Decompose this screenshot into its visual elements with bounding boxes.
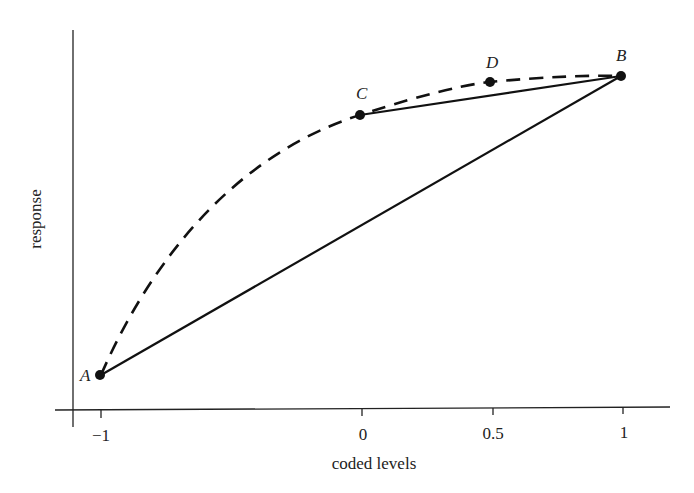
solid-line-a-b (101, 76, 621, 375)
point-c-label: C (356, 84, 368, 103)
x-tick-label-minus1: −1 (92, 426, 110, 445)
point-a-marker (95, 370, 105, 380)
point-c-marker (355, 110, 365, 120)
x-axis-label: coded levels (332, 454, 417, 473)
point-d-marker (485, 77, 495, 87)
x-tick-label-0: 0 (359, 425, 368, 444)
response-curve-diagram: −1 0 0.5 1 coded levels response A C D B (0, 0, 694, 493)
point-d-label: D (485, 53, 499, 72)
x-tick-label-1: 1 (620, 423, 629, 442)
y-axis-label: response (26, 189, 45, 248)
point-b-label: B (616, 46, 627, 65)
point-a-label: A (79, 366, 91, 385)
x-tick-label-0-5: 0.5 (482, 424, 503, 443)
point-b-marker (616, 71, 626, 81)
